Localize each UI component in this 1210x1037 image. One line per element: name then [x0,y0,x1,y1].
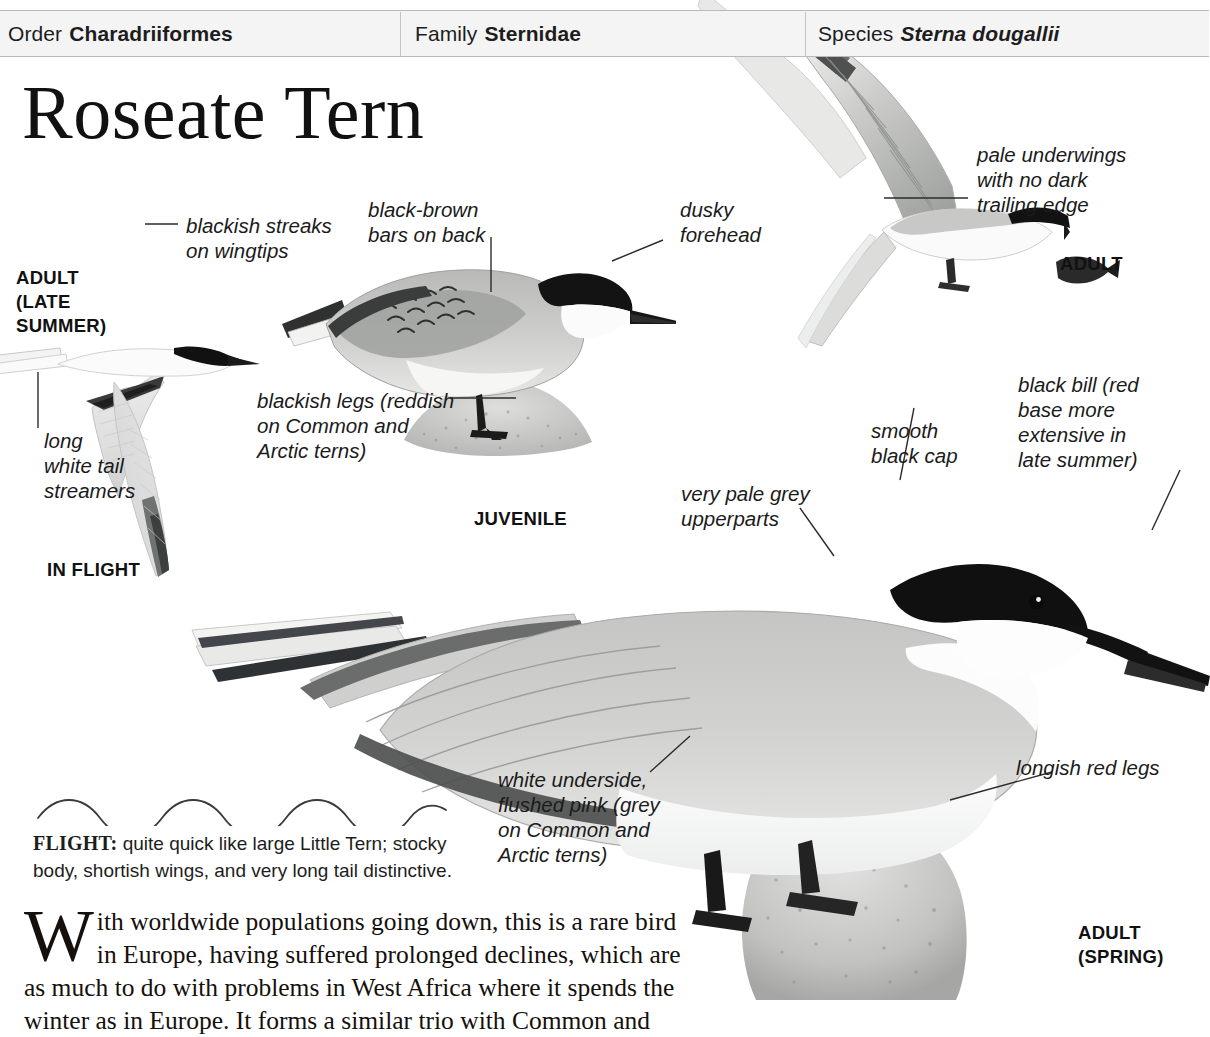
plate-label-adult-late-summer: ADULT (LATE SUMMER) [16,266,106,338]
annotation-blackish-legs: blackish legs (reddish on Common and Arc… [257,388,454,463]
annotation-black-bill: black bill (red base more extensive in l… [1018,372,1139,472]
plate-label-juvenile: JUVENILE [474,507,567,531]
annotation-blackish-streaks-on-wingtips: blackish streaks on wingtips [186,213,332,263]
annotation-long-white-tail-streamers: long white tail streamers [44,428,135,503]
annotation-white-underside: white underside, flushed pink (grey on C… [498,767,660,867]
plate-label-adult: ADULT [1060,252,1123,276]
plate-label-adult-spring: ADULT (SPRING) [1078,921,1164,969]
annotation-longish-red-legs: longish red legs [1016,755,1160,780]
annotation-dusky-forehead: dusky forehead [680,197,761,247]
drop-cap: W [24,907,94,965]
annotation-black-brown-bars-on-back: black-brown bars on back [368,197,485,247]
species-account-paragraph: With worldwide populations going down, t… [24,905,684,1037]
flight-pattern-wave [36,792,448,826]
flight-description: FLIGHT: quite quick like large Little Te… [33,830,463,884]
flight-heading: FLIGHT: [33,832,117,854]
annotation-smooth-black-cap: smooth black cap [871,418,958,468]
annotation-very-pale-grey-upperparts: very pale grey upperparts [681,481,810,531]
species-account-text: ith worldwide populations going down, th… [24,907,681,1035]
annotation-pale-underwings: pale underwings with no dark trailing ed… [977,142,1126,217]
plate-label-in-flight: IN FLIGHT [47,558,140,582]
